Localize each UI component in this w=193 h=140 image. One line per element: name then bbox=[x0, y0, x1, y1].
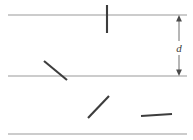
dimension-arrow-d: d bbox=[176, 15, 182, 76]
needles-group bbox=[44, 5, 172, 118]
needle-horizontal-lower-right bbox=[141, 114, 172, 116]
dimension-label-d: d bbox=[176, 42, 182, 54]
needle-diagonal-crossing-middle bbox=[44, 61, 67, 80]
arrowhead-up-icon bbox=[176, 15, 182, 22]
parallel-lines-group bbox=[8, 15, 187, 134]
figure-root: d bbox=[0, 0, 193, 140]
arrowhead-down-icon bbox=[176, 70, 182, 77]
diagram-canvas: d bbox=[0, 0, 193, 140]
needle-diagonal-lower-left bbox=[88, 96, 109, 118]
